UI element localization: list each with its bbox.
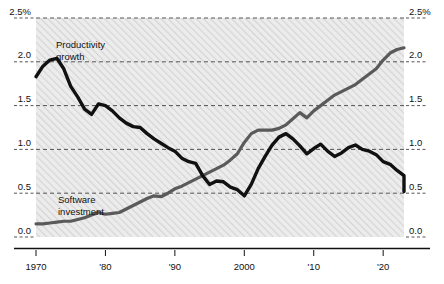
y-tick-label-right-2.0: 2.0 <box>409 49 422 60</box>
y-tick-label-right-1.5: 1.5 <box>409 93 422 104</box>
annotation-productivity-line2: growth <box>56 51 85 62</box>
x-tick-label-'10: '10 <box>308 261 320 272</box>
y-tick-label-left-0.5: 0.5 <box>18 181 31 192</box>
x-tick-label-'80: '80 <box>99 261 111 272</box>
y-tick-label-right-2.5%: 2.5% <box>409 6 431 17</box>
annotation-productivity-line1: Productivity <box>56 39 105 50</box>
x-axis-ticks: 1970'80'902000'10'20 <box>25 250 389 272</box>
y-tick-label-left-2.5%: 2.5% <box>9 6 31 17</box>
annotation-software-line1: Software <box>58 194 96 205</box>
y-tick-label-right-0.5: 0.5 <box>409 181 422 192</box>
x-tick-label-2000: 2000 <box>234 261 255 272</box>
y-tick-label-right-1.0: 1.0 <box>409 137 422 148</box>
y-tick-label-left-2.0: 2.0 <box>18 49 31 60</box>
x-tick-label-1970: 1970 <box>25 261 46 272</box>
line-chart: 1970'80'902000'10'20 2.5%2.01.51.00.50.0… <box>0 0 444 284</box>
x-tick-label-'90: '90 <box>169 261 181 272</box>
x-tick-label-'20: '20 <box>377 261 389 272</box>
y-axis-labels-right: 2.5%2.01.51.00.50.0 <box>409 6 431 236</box>
y-tick-label-left-0.0: 0.0 <box>18 225 31 236</box>
y-tick-label-left-1.5: 1.5 <box>18 93 31 104</box>
y-tick-label-left-1.0: 1.0 <box>18 137 31 148</box>
y-tick-label-right-0.0: 0.0 <box>409 225 422 236</box>
chart-container: 1970'80'902000'10'20 2.5%2.01.51.00.50.0… <box>0 0 444 284</box>
annotation-software-line2: investment <box>58 206 104 217</box>
